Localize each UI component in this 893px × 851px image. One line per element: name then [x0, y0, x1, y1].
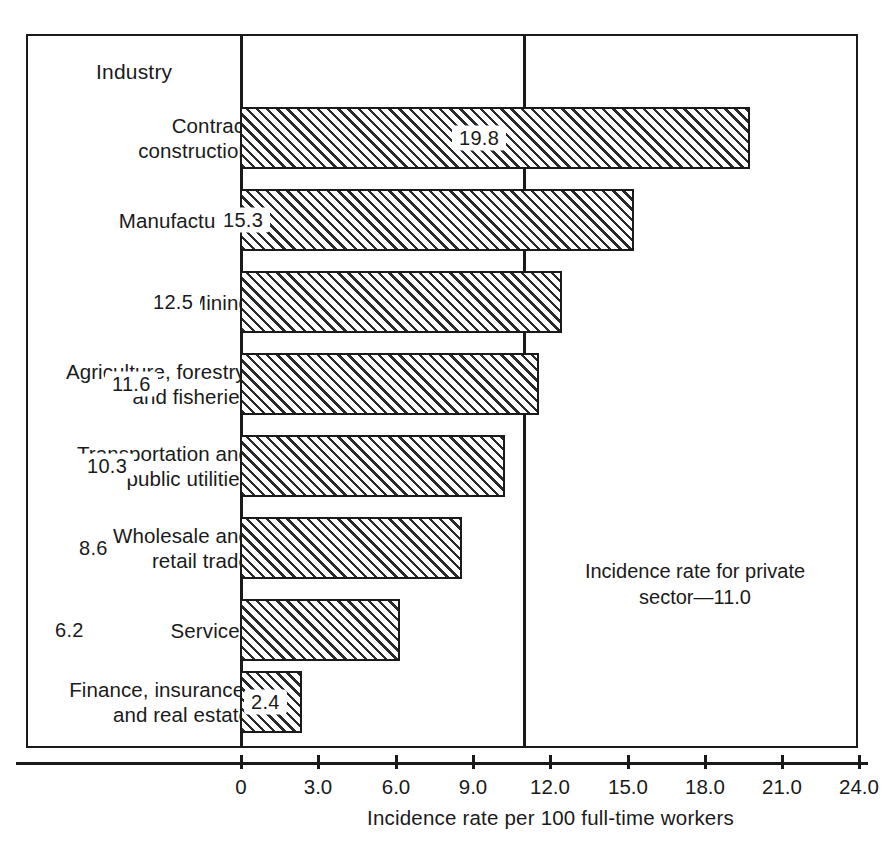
x-tick [472, 755, 475, 769]
reference-line-annotation: Incidence rate for private sector—11.0 [545, 558, 845, 610]
x-tick-label: 9.0 [459, 775, 488, 799]
category-label: Wholesale and retail trade [113, 523, 250, 573]
x-tick-label: 18.0 [685, 775, 725, 799]
x-axis-line [16, 762, 868, 765]
bar-row: Agriculture, forestry, and fisheries 11.… [0, 353, 893, 415]
bar-value-label: 8.6 [72, 536, 115, 561]
x-tick [781, 755, 784, 769]
bar-wholesale-retail-trade [240, 517, 462, 579]
category-label: Services [171, 618, 250, 643]
bar-row: Contract construction 19.8 [0, 107, 893, 169]
bar-value-label: 2.4 [244, 690, 287, 715]
bar-agriculture-forestry-fisheries [240, 353, 539, 415]
x-axis-title: Incidence rate per 100 full-time workers [0, 806, 893, 830]
bar-mining [240, 271, 562, 333]
x-tick [627, 755, 630, 769]
x-tick [858, 755, 861, 769]
x-axis-title-text: Incidence rate per 100 full-time workers [367, 806, 734, 829]
bar-value-label: 12.5 [146, 290, 200, 315]
category-label: Contract construction [138, 113, 250, 163]
bar-row: Manufacturing 15.3 [0, 189, 893, 251]
x-tick-label: 0 [235, 775, 246, 799]
bar-services [240, 599, 400, 661]
category-label: Agriculture, forestry, and fisheries [66, 359, 250, 409]
bar-value-label: 11.6 [105, 372, 158, 397]
x-tick [240, 755, 243, 769]
bar-value-label: 6.2 [48, 618, 91, 643]
bar-row: Finance, insurance, and real estate 2.4 [0, 671, 893, 733]
x-tick-label: 12.0 [530, 775, 570, 799]
category-label: Finance, insurance, and real estate [69, 677, 250, 727]
x-tick-label: 24.0 [839, 775, 879, 799]
x-tick [549, 755, 552, 769]
x-tick-label: 21.0 [762, 775, 802, 799]
bar-manufacturing [240, 189, 634, 251]
bar-value-label: 19.8 [452, 126, 506, 151]
x-tick [704, 755, 707, 769]
x-tick-label: 3.0 [304, 775, 333, 799]
x-tick-label: 15.0 [608, 775, 648, 799]
bar-row: Mining 12.5 [0, 271, 893, 333]
bar-row: Transportation and public utilities 10.3 [0, 435, 893, 497]
y-axis-header: Industry [96, 60, 172, 84]
x-tick [317, 755, 320, 769]
bar-chart-figure: Industry Contract construction 19.8 Manu… [0, 0, 893, 851]
x-tick [395, 755, 398, 769]
bar-value-label: 15.3 [216, 208, 270, 233]
x-tick-label: 6.0 [382, 775, 411, 799]
bar-value-label: 10.3 [80, 454, 134, 479]
bar-transportation-public-utilities [240, 435, 505, 497]
